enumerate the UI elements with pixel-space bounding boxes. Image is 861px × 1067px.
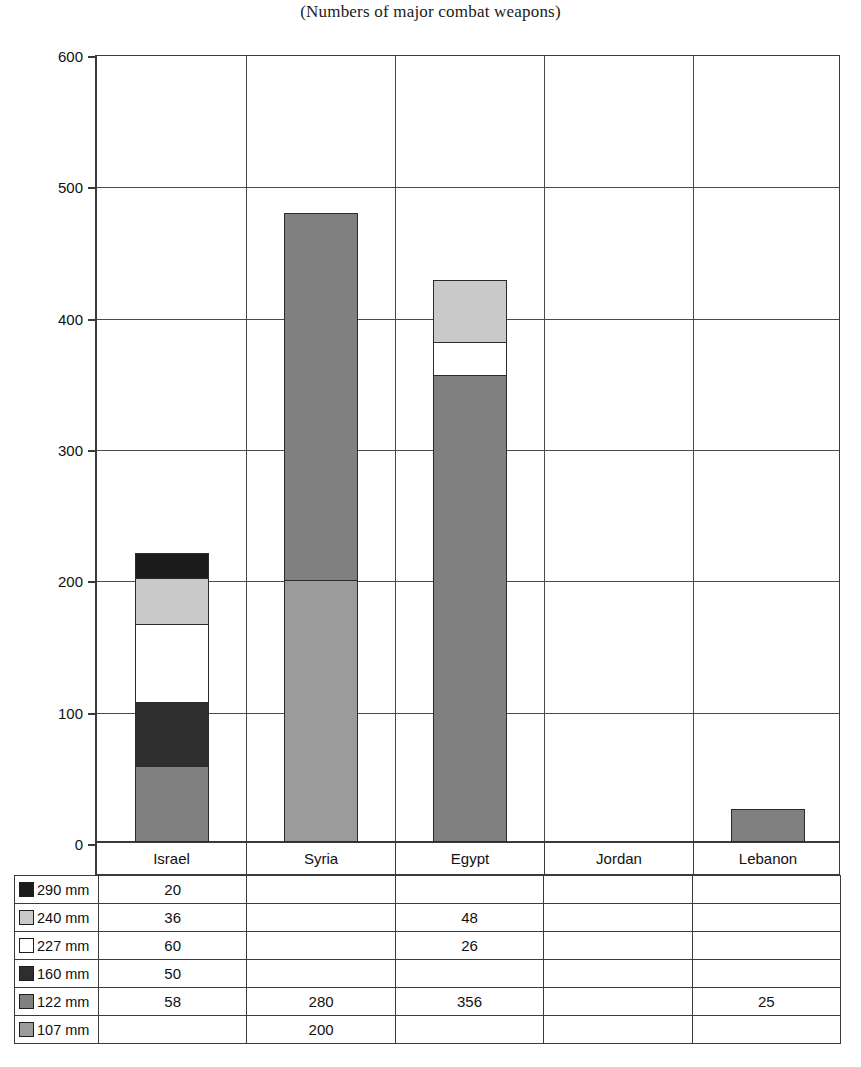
table-row: 227 mm6026	[15, 932, 841, 960]
table-cell-egypt-240mm: 48	[395, 904, 543, 932]
y-axis-label: 300	[58, 442, 83, 459]
table-cell-egypt-227mm: 26	[395, 932, 543, 960]
legend-entry-290mm: 290 mm	[15, 876, 99, 904]
bar-lebanon[interactable]	[731, 809, 805, 841]
category-divider	[395, 56, 396, 841]
legend-label: 227 mm	[37, 938, 89, 954]
y-axis-label: 500	[58, 179, 83, 196]
table-cell-israel-240mm: 36	[99, 904, 247, 932]
bar-segment-122mm-syria[interactable]	[284, 213, 358, 581]
y-axis-label: 200	[58, 573, 83, 590]
bar-segment-160mm-israel[interactable]	[135, 702, 209, 768]
bar-syria[interactable]	[284, 213, 358, 841]
legend-label: 107 mm	[37, 1022, 89, 1038]
category-divider	[693, 56, 694, 841]
table-cell-jordan-227mm	[544, 932, 692, 960]
table-cell-jordan-240mm	[544, 904, 692, 932]
table-cell-egypt-290mm	[395, 876, 543, 904]
table-cell-jordan-160mm	[544, 960, 692, 988]
table-row: 290 mm20	[15, 876, 841, 904]
table-cell-israel-160mm: 50	[99, 960, 247, 988]
table-row: 160 mm50	[15, 960, 841, 988]
bar-segment-122mm-egypt[interactable]	[433, 375, 507, 843]
legend-label: 290 mm	[37, 882, 89, 898]
legend-entry-227mm: 227 mm	[15, 932, 99, 960]
legend-data-table: 290 mm20240 mm3648227 mm6026160 mm50122 …	[14, 875, 841, 1044]
table-cell-lebanon-227mm	[692, 932, 840, 960]
table-cell-lebanon-107mm	[692, 1016, 840, 1044]
table-cell-lebanon-240mm	[692, 904, 840, 932]
legend-swatch-icon	[19, 882, 34, 897]
y-axis-tick	[88, 581, 97, 583]
table-cell-egypt-122mm: 356	[395, 988, 543, 1016]
table-cell-jordan-122mm	[544, 988, 692, 1016]
legend-entry-122mm: 122 mm	[15, 988, 99, 1016]
table-cell-jordan-107mm	[544, 1016, 692, 1044]
bar-segment-122mm-lebanon[interactable]	[731, 809, 805, 842]
category-label-israel: Israel	[97, 843, 246, 874]
table-cell-syria-107mm: 200	[247, 1016, 395, 1044]
table-cell-syria-122mm: 280	[247, 988, 395, 1016]
bar-segment-240mm-egypt[interactable]	[433, 280, 507, 343]
chart-plot-area: 0100200300400500600	[95, 55, 840, 843]
category-label-syria: Syria	[246, 843, 395, 874]
y-axis-label: 0	[75, 836, 83, 853]
bar-israel[interactable]	[135, 553, 209, 841]
table-row: 122 mm5828035625	[15, 988, 841, 1016]
table-cell-syria-160mm	[247, 960, 395, 988]
legend-swatch-icon	[19, 938, 34, 953]
table-cell-lebanon-122mm: 25	[692, 988, 840, 1016]
table-cell-lebanon-290mm	[692, 876, 840, 904]
category-label-lebanon: Lebanon	[693, 843, 842, 874]
category-divider	[246, 56, 247, 841]
table-row: 107 mm200	[15, 1016, 841, 1044]
bar-segment-122mm-israel[interactable]	[135, 766, 209, 842]
y-axis-label: 600	[58, 48, 83, 65]
bar-segment-290mm-israel[interactable]	[135, 553, 209, 579]
y-axis-label: 400	[58, 310, 83, 327]
y-axis-label: 100	[58, 704, 83, 721]
category-label-egypt: Egypt	[395, 843, 544, 874]
y-axis-tick	[88, 319, 97, 321]
legend-entry-160mm: 160 mm	[15, 960, 99, 988]
bar-segment-227mm-israel[interactable]	[135, 624, 209, 703]
table-cell-israel-227mm: 60	[99, 932, 247, 960]
legend-label: 240 mm	[37, 910, 89, 926]
table-cell-jordan-290mm	[544, 876, 692, 904]
table-cell-syria-240mm	[247, 904, 395, 932]
legend-entry-240mm: 240 mm	[15, 904, 99, 932]
y-gridline	[97, 187, 839, 188]
y-axis-tick	[88, 713, 97, 715]
chart-title: (Numbers of major combat weapons)	[0, 2, 861, 22]
bar-segment-107mm-syria[interactable]	[284, 580, 358, 843]
table-cell-egypt-107mm	[395, 1016, 543, 1044]
table-cell-israel-122mm: 58	[99, 988, 247, 1016]
category-label-jordan: Jordan	[544, 843, 693, 874]
category-label-row: IsraelSyriaEgyptJordanLebanon	[95, 843, 840, 875]
table-cell-syria-227mm	[247, 932, 395, 960]
legend-swatch-icon	[19, 966, 34, 981]
category-divider	[544, 56, 545, 841]
legend-swatch-icon	[19, 994, 34, 1009]
legend-label: 122 mm	[37, 994, 89, 1010]
legend-swatch-icon	[19, 1022, 34, 1037]
table-cell-israel-290mm: 20	[99, 876, 247, 904]
table-cell-egypt-160mm	[395, 960, 543, 988]
y-axis-tick	[88, 187, 97, 189]
table-cell-israel-107mm	[99, 1016, 247, 1044]
bar-segment-240mm-israel[interactable]	[135, 578, 209, 625]
table-row: 240 mm3648	[15, 904, 841, 932]
bar-egypt[interactable]	[433, 280, 507, 841]
table-cell-lebanon-160mm	[692, 960, 840, 988]
legend-swatch-icon	[19, 910, 34, 925]
legend-entry-107mm: 107 mm	[15, 1016, 99, 1044]
bar-segment-227mm-egypt[interactable]	[433, 342, 507, 376]
legend-label: 160 mm	[37, 966, 89, 982]
y-axis-tick	[88, 450, 97, 452]
table-cell-syria-290mm	[247, 876, 395, 904]
y-axis-tick	[88, 56, 97, 58]
